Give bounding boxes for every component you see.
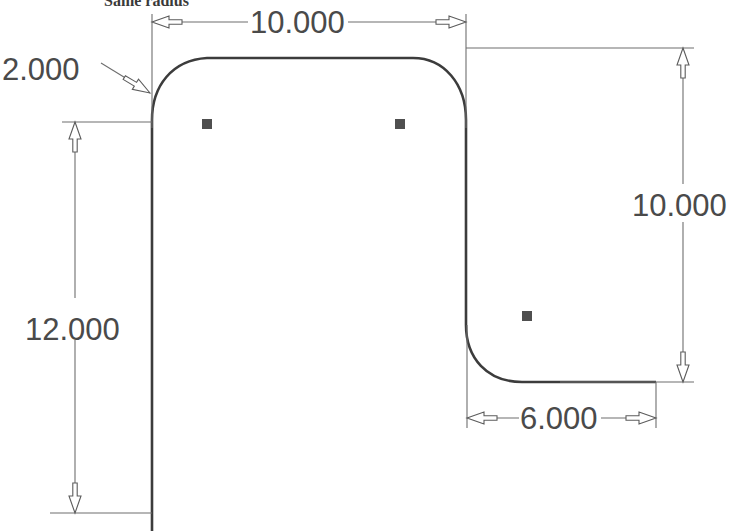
dimension-label-left-height: 12.000: [25, 312, 120, 347]
square-point-marker-icon: [522, 311, 532, 321]
dimension-label-top-width: 10.000: [250, 5, 345, 40]
dimension-label-corner-radius: 2.000: [2, 52, 80, 87]
dimension-arrowhead-icon: [626, 412, 656, 424]
dimension-arrowhead-icon: [436, 16, 466, 28]
dimension-arrowhead-icon: [677, 48, 689, 78]
drawing-note-group: Same radius: [104, 0, 189, 9]
point-markers-group: [202, 119, 532, 321]
dimension-corner-radius: 2.000: [2, 52, 153, 98]
dimension-top-width: 10.000: [152, 5, 466, 128]
dimension-bottom-width: 6.000: [467, 325, 656, 436]
square-point-marker-icon: [202, 119, 212, 129]
dimension-arrowhead-icon: [152, 16, 182, 28]
dimension-left-height: 12.000: [25, 122, 152, 513]
dimension-right-height: 10.000: [466, 48, 727, 382]
dimension-arrowhead-icon: [69, 483, 81, 513]
engineering-drawing-canvas: 10.000 2.000 10.000 12.000: [0, 0, 731, 531]
dimension-arrowhead-icon: [467, 412, 497, 424]
dimension-label-bottom-width: 6.000: [520, 401, 598, 436]
dimension-arrowhead-icon: [677, 352, 689, 382]
dimension-arrowhead-icon: [121, 72, 153, 98]
drawing-note-text: Same radius: [104, 0, 189, 9]
dimension-label-right-height: 10.000: [632, 188, 727, 223]
square-point-marker-icon: [395, 119, 405, 129]
dimension-arrowhead-icon: [69, 122, 81, 152]
